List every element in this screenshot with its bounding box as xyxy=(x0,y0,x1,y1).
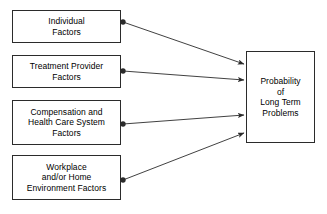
node-workplace-home-environment-factors[interactable]: Workplace and/or Home Environment Factor… xyxy=(12,155,121,200)
edge-source-dot-icon xyxy=(120,121,125,126)
edge-line xyxy=(123,115,244,124)
node-label: Compensation and Health Care System Fact… xyxy=(28,107,105,139)
edge-line xyxy=(123,133,244,180)
node-compensation-health-care-system-factors[interactable]: Compensation and Health Care System Fact… xyxy=(12,100,121,145)
edge-source-dot-icon xyxy=(120,177,125,182)
node-individual-factors[interactable]: Individual Factors xyxy=(12,10,121,43)
node-treatment-provider-factors[interactable]: Treatment Provider Factors xyxy=(12,55,121,88)
node-probability-long-term-problems[interactable]: Probability of Long Term Problems xyxy=(246,51,315,143)
node-label: Workplace and/or Home Environment Factor… xyxy=(27,162,106,194)
node-label: Treatment Provider Factors xyxy=(30,61,103,82)
edge-source-dot-icon xyxy=(120,68,125,73)
edge-line xyxy=(123,22,244,64)
edge-line xyxy=(123,71,244,80)
node-label: Individual Factors xyxy=(48,16,84,37)
node-label: Probability of Long Term Problems xyxy=(260,76,300,118)
diagram-canvas: Individual Factors Treatment Provider Fa… xyxy=(0,0,327,214)
edge-source-dot-icon xyxy=(120,19,125,24)
